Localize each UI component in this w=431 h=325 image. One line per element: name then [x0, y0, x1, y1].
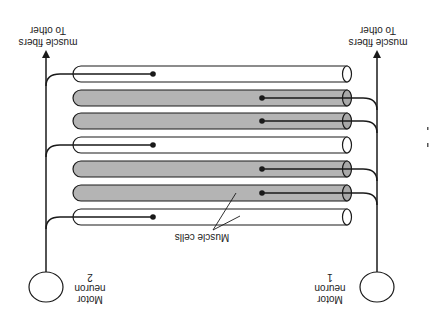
- motor-neuron-2-label-line1: Motor: [77, 294, 103, 305]
- muscle-cells-label: Muscle cells: [175, 232, 229, 243]
- motor-neuron-1-soma: [360, 272, 394, 302]
- arrow-up-icon: [42, 50, 50, 58]
- motor-neuron-1-label: Motor neuron 1: [314, 272, 345, 305]
- motor-neuron-2-label-line3: 2: [87, 272, 93, 283]
- motor-neuron-2-label-line2: neuron: [74, 283, 105, 294]
- motor-neuron-1-label-line3: 1: [327, 272, 333, 283]
- motor-unit-diagram: To other muscle fibers To other muscle f…: [0, 0, 431, 325]
- arrow-label-right-line1: To other: [359, 25, 396, 36]
- arrow-label-left-line2: muscle fibers: [19, 37, 78, 48]
- diagram-canvas: To other muscle fibers To other muscle f…: [0, 0, 431, 325]
- arrow-label-left: To other muscle fibers: [19, 25, 78, 48]
- motor-neuron-2-soma: [29, 272, 63, 302]
- motor-neuron-2-label: Motor neuron 2: [74, 272, 105, 305]
- arrow-label-right: To other muscle fibers: [349, 25, 408, 48]
- motor-neuron-1-label-line1: Motor: [317, 294, 343, 305]
- motor-neuron-1-label-line2: neuron: [314, 283, 345, 294]
- arrow-label-right-line2: muscle fibers: [349, 37, 408, 48]
- arrow-up-icon: [373, 50, 381, 58]
- arrow-label-left-line1: To other: [29, 25, 66, 36]
- cropped-side-mark: [427, 127, 429, 147]
- muscle-cells-label-text: Muscle cells: [175, 232, 229, 243]
